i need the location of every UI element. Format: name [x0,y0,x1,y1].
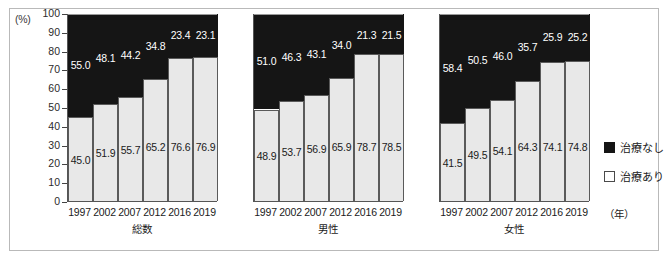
x-axis-tick-label: 2002 [92,206,117,218]
x-axis-tick-label: 2007 [117,206,142,218]
x-axis-tick-label: 2016 [539,206,564,218]
bar-segment-with-treatment [279,101,304,201]
stacked-bar[interactable]: 34.065.9 [329,14,354,201]
plot-area: 51.048.946.353.743.156.934.065.921.378.7… [253,14,403,202]
bar-segment-no-treatment [515,14,540,81]
bar-segment-no-treatment [68,14,93,117]
y-axis-tick-label: 80 [20,45,60,57]
bar-segment-no-treatment [279,14,304,101]
bar-segment-no-treatment [143,14,168,79]
bar-segment-no-treatment [329,14,354,78]
x-axis-tick-label: 1997 [253,206,278,218]
panel-title: 女性 [439,221,589,236]
stacked-bar[interactable]: 23.176.9 [193,14,218,201]
stacked-bar[interactable]: 51.048.9 [254,14,279,201]
plot-area: 58.441.550.549.546.054.135.764.325.974.1… [439,14,589,202]
y-axis-tick-label: 30 [20,139,60,151]
stacked-bar[interactable]: 23.476.6 [168,14,193,201]
bar-segment-with-treatment [143,79,168,201]
legend-swatch-dark [604,142,615,153]
bar-segment-no-treatment [490,14,515,100]
x-axis-tick-label: 2002 [278,206,303,218]
bar-segment-with-treatment [93,104,118,201]
x-axis-tick-label: 2007 [303,206,328,218]
x-axis-tick-label: 1997 [67,206,92,218]
plot-area: 55.045.048.151.944.255.734.865.223.476.6… [67,14,217,202]
bar-segment-with-treatment [565,61,590,201]
bar-segment-with-treatment [168,58,193,201]
stacked-bar[interactable]: 48.151.9 [93,14,118,201]
panel-title: 男性 [253,221,403,236]
stacked-bar[interactable]: 50.549.5 [465,14,490,201]
chart-legend: 治療なし治療あり [604,139,664,197]
bar-segment-with-treatment [118,97,143,201]
x-axis-tick-label: 2019 [192,206,217,218]
y-axis-tick-label: 20 [20,157,60,169]
stacked-bar[interactable]: 55.045.0 [68,14,93,201]
bar-segment-no-treatment [540,14,565,62]
bar-segment-no-treatment [440,14,465,123]
chart-panel-3: 19972002200720122016201958.441.550.549.5… [439,14,589,242]
y-axis-tick-label: 60 [20,82,60,94]
bar-segment-with-treatment [540,62,565,201]
chart-figure: (%) 1009080706050403020100 1997200220072… [0,0,668,265]
x-axis-tick-label: 2016 [353,206,378,218]
stacked-bar[interactable]: 46.353.7 [279,14,304,201]
x-axis-tick-label: 2012 [142,206,167,218]
bar-segment-no-treatment [354,14,379,54]
stacked-bar[interactable]: 21.378.7 [354,14,379,201]
x-axis-tick-label: 2012 [514,206,539,218]
y-axis-tick-label: 0 [20,195,60,207]
bar-segment-with-treatment [193,57,218,201]
legend-label: 治療あり [620,168,664,184]
chart-panel-1: 19972002200720122016201955.045.048.151.9… [67,14,217,242]
bar-segment-no-treatment [254,14,279,109]
x-axis-tick-label: 2012 [328,206,353,218]
panel-title: 総数 [67,221,217,236]
legend-label: 治療なし [620,139,664,155]
y-axis-tick-label: 40 [20,120,60,132]
x-axis-tick-label: 2019 [564,206,589,218]
bar-segment-no-treatment [93,14,118,104]
x-axis-tick-label: 2007 [489,206,514,218]
x-axis-tick-label: 2016 [167,206,192,218]
bar-segment-no-treatment [565,14,590,61]
bar-segment-no-treatment [465,14,490,108]
bar-segment-no-treatment [304,14,329,95]
bar-segment-with-treatment [354,54,379,201]
bar-segment-with-treatment [465,108,490,201]
stacked-bar[interactable]: 34.865.2 [143,14,168,201]
chart-panel-2: 19972002200720122016201951.048.946.353.7… [253,14,403,242]
bar-segment-no-treatment [168,14,193,58]
stacked-bar[interactable]: 44.255.7 [118,14,143,201]
y-axis-tick-label: 50 [20,101,60,113]
bar-segment-no-treatment [193,14,218,57]
x-axis-tick-label: 2002 [464,206,489,218]
bar-segment-no-treatment [118,14,143,97]
stacked-bar[interactable]: 25.274.8 [565,14,590,201]
stacked-bar[interactable]: 21.578.5 [379,14,404,201]
bar-segment-with-treatment [329,78,354,201]
bar-segment-with-treatment [254,110,279,201]
x-axis-tick-label: 2019 [378,206,403,218]
stacked-bar[interactable]: 35.764.3 [515,14,540,201]
legend-swatch-light [604,171,615,182]
legend-item[interactable]: 治療あり [604,168,664,184]
legend-item[interactable]: 治療なし [604,139,664,155]
bar-segment-with-treatment [490,100,515,201]
x-axis-tick-label: 1997 [439,206,464,218]
bar-segment-no-treatment [379,14,404,54]
y-axis-tick-label: 10 [20,176,60,188]
y-axis-tick-label: 70 [20,63,60,75]
stacked-bar[interactable]: 58.441.5 [440,14,465,201]
stacked-bar[interactable]: 43.156.9 [304,14,329,201]
bar-segment-with-treatment [440,123,465,201]
bar-segment-with-treatment [515,81,540,201]
stacked-bar[interactable]: 25.974.1 [540,14,565,201]
stacked-bar[interactable]: 46.054.1 [490,14,515,201]
x-axis-unit-label: （年） [604,206,634,221]
y-axis-tick-label: 100 [20,7,60,19]
bar-segment-with-treatment [68,117,93,201]
bar-segment-with-treatment [379,54,404,201]
y-axis-tick-label: 90 [20,26,60,38]
